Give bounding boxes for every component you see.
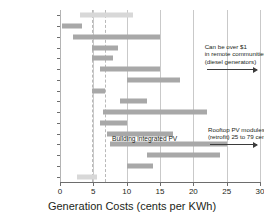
annotation-rooftop-pv-note: Rooftop PV modules(retrofit) 25 to 79 ce… [208,126,264,141]
tick-30 [260,182,261,186]
category-tick [57,166,60,167]
chart-row: DSM [60,171,260,182]
tick-20 [193,182,194,186]
chart-row: Coal [60,85,260,96]
tick-label-5: 5 [91,187,95,196]
annotation-arrow-rooftop-pv-note [210,144,257,145]
category-tick [57,123,60,124]
range-bar [92,56,113,61]
category-tick [57,155,60,156]
category-tick [57,26,60,27]
chart-row: Tidal [60,150,260,161]
generation-costs-chart: Reservoir HydroCapacity IncreasesRun of … [0,0,264,218]
category-tick [57,91,60,92]
range-bar [73,34,160,39]
category-tick [57,69,60,70]
tick-5 [93,182,94,186]
chart-row: Reservoir Hydro [60,10,260,21]
category-tick [57,112,60,113]
category-tick [57,101,60,102]
tick-25 [227,182,228,186]
tick-label-0: 0 [58,187,62,196]
category-tick [57,80,60,81]
range-bar [80,13,133,18]
category-tick [57,15,60,16]
range-bar [92,88,105,93]
annotation-building-integrated-pv-note: Building integrated PV [112,135,177,142]
tick-label-30: 30 [256,187,264,196]
range-bar [100,67,160,72]
range-bar [127,163,154,168]
chart-row: Capacity Increases [60,21,260,32]
category-tick [57,177,60,178]
range-bar [103,110,206,115]
tick-15 [160,182,161,186]
category-tick [57,144,60,145]
chart-row: Wave [60,161,260,172]
tick-0 [60,182,61,186]
range-bar [127,77,180,82]
bars-layer: Reservoir HydroCapacity IncreasesRun of … [60,10,260,182]
annotation-arrow-oil-diesel-note [207,69,257,70]
range-bar [92,45,118,50]
chart-row: Diesel [60,75,260,86]
tick-label-15: 15 [156,187,165,196]
range-bar [120,99,147,104]
category-tick [57,58,60,59]
range-bar [62,24,82,29]
tick-label-25: 25 [222,187,231,196]
tick-label-20: 20 [189,187,198,196]
chart-row: Biomass [60,107,260,118]
tick-10 [127,182,128,186]
range-bar [147,153,220,158]
range-bar [77,174,97,179]
annotation-oil-diesel-note: Can be over $1in remote communities(dies… [205,43,264,65]
tick-label-10: 10 [122,187,131,196]
chart-row: ERG [60,96,260,107]
category-tick [57,48,60,49]
x-axis-label: Generation Costs (cents per KWh) [0,200,264,212]
category-tick [57,37,60,38]
gridline-30 [260,10,261,182]
range-bar [100,120,127,125]
chart-row: Run of River Hydro [60,32,260,43]
category-tick [57,134,60,135]
